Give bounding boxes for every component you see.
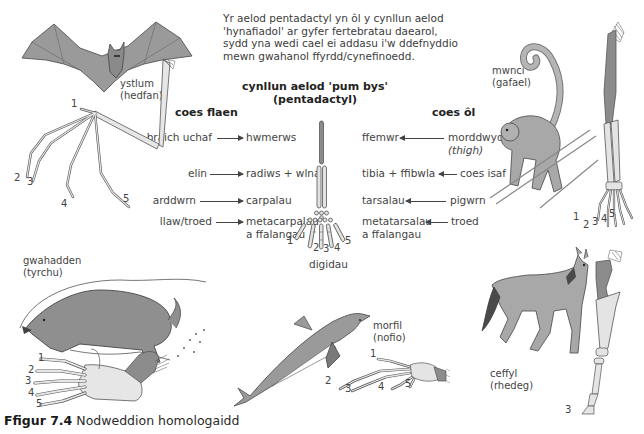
hindlimb-part-foot: troed: [451, 215, 479, 228]
horse-illustration: [482, 245, 592, 365]
intro-line-3: sydd yna wedi cael ei addasu i'w ddefnyd…: [223, 37, 458, 50]
mole-digit-3: 3: [25, 375, 31, 386]
arrow-thigh: [400, 138, 444, 139]
center-title-line-1: cynllun aelod 'pum bys': [230, 81, 400, 94]
bat-digit-4: 4: [61, 198, 67, 209]
center-diagram-title: cynllun aelod 'pum bys' (pentadactyl): [230, 81, 400, 106]
horse-digit-3: 3: [565, 404, 571, 415]
mole-digit-4: 4: [28, 387, 34, 398]
monkey-digit-1: 1: [573, 211, 579, 222]
hindlimb-bone-tibia-fibula: tibia + ffibwla: [362, 167, 435, 180]
hindlimb-bone-metatarsals: metatarsalau a ffalangau: [362, 215, 432, 240]
forelimb-part-hand: llaw/troed: [130, 215, 212, 228]
mole-digit-5: 5: [36, 398, 42, 409]
mole-digit-2: 2: [28, 364, 34, 375]
figure-label: Ffigur 7.4: [4, 413, 72, 428]
forelimb-bone-carpals: carpalau: [246, 194, 292, 207]
whale-digit-3: 3: [345, 383, 351, 394]
monkey-digit-2: 2: [583, 219, 589, 230]
monkey-digit-3: 3: [592, 216, 598, 227]
whale-label: morfil (nofio): [373, 320, 406, 344]
figure-caption-text: Nodweddion homologaidd: [76, 413, 239, 428]
digits-label: digidau: [309, 258, 348, 271]
mole-arm-bones: [25, 335, 195, 415]
mole-digit-1: 1: [38, 352, 44, 363]
arrow-wrist: [200, 201, 243, 202]
arrow-forearm: [210, 174, 243, 175]
figure-caption: Ffigur 7.4 Nodweddion homologaidd: [4, 413, 239, 428]
arrow-hand: [216, 222, 243, 223]
center-digit-1: 1: [287, 235, 293, 246]
center-digit-3: 3: [323, 243, 329, 254]
center-digit-4: 4: [334, 242, 340, 253]
bat-digit-3: 3: [27, 176, 33, 187]
horse-label: ceffyl (rhedeg): [490, 368, 533, 392]
whale-digit-2: 2: [325, 375, 331, 386]
center-digit-2: 2: [313, 242, 319, 253]
intro-line-4: mewn gwahanol ffyrdd/cynefinoedd.: [223, 50, 458, 63]
arrow-upper-arm: [217, 138, 243, 139]
monkey-digit-5: 5: [609, 208, 615, 219]
whale-digit-5: 5: [405, 378, 411, 389]
hindlimb-bone-femur: ffemwr: [362, 131, 399, 144]
hindlimb-bone-tarsals: tarsalau: [362, 194, 405, 207]
arrow-foot: [426, 222, 448, 223]
bat-digit-2: 2: [14, 172, 20, 183]
arrow-ankle: [406, 201, 446, 202]
hindlimb-part-ankle: pigwrn: [450, 194, 486, 207]
intro-line-2: 'hynafiadol' ar gyfer fertebratau daearo…: [223, 25, 458, 38]
intro-text: Yr aelod pentadactyl yn ôl y cynllun ael…: [223, 12, 458, 62]
whale-digit-1: 1: [370, 348, 376, 359]
arrow-lower-leg: [439, 174, 457, 175]
bat-digit-5: 5: [123, 193, 129, 204]
center-title-line-2: (pentadactyl): [230, 94, 400, 107]
monkey-digit-4: 4: [601, 213, 607, 224]
intro-line-1: Yr aelod pentadactyl yn ôl y cynllun ael…: [223, 12, 458, 25]
monkey-arm-bones: [580, 20, 640, 230]
pentadactyl-limb-diagram: [293, 120, 353, 250]
forelimb-bone-humerus: hwmerws: [246, 131, 296, 144]
whale-digit-4: 4: [378, 381, 384, 392]
hindlimb-heading: coes ôl: [432, 107, 475, 120]
bat-digit-1: 1: [71, 98, 77, 109]
center-digit-5: 5: [345, 235, 351, 246]
horse-leg-bones: [580, 248, 640, 418]
